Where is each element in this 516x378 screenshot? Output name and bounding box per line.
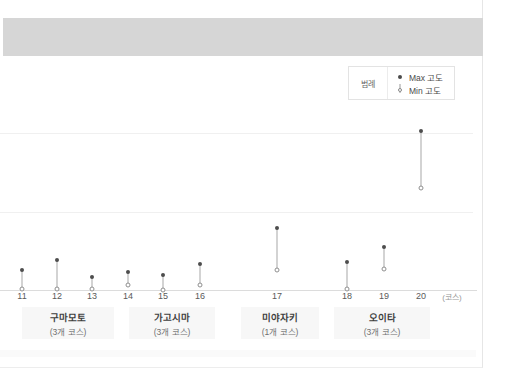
top-banner [3, 18, 483, 56]
group-course-count: (3개 코스) [50, 325, 87, 337]
data-point-min[interactable] [382, 267, 387, 272]
group-name: 미야자키 [262, 310, 298, 324]
data-point-max[interactable] [55, 258, 59, 262]
stem-connector [277, 228, 278, 269]
data-point-max[interactable] [275, 226, 279, 230]
x-tick-label: 18 [342, 291, 352, 301]
data-point-min[interactable] [126, 283, 131, 288]
stem-connector [347, 262, 348, 290]
legend-title: 범례 [349, 67, 388, 99]
data-point-max[interactable] [419, 129, 423, 133]
group-name: 구마모토 [50, 310, 86, 324]
chart-legend: 범례 Max 고도 Min 고도 [348, 66, 455, 100]
data-point-max[interactable] [345, 260, 349, 264]
group-box: 미야자키(1개 코스) [241, 307, 319, 339]
gridline-upper [0, 133, 473, 134]
group-course-count: (1개 코스) [262, 325, 299, 337]
x-tick-label: 13 [87, 291, 97, 301]
min-dot-icon [395, 88, 405, 92]
data-point-min[interactable] [275, 267, 280, 272]
group-box: 구마모토(3개 코스) [22, 307, 114, 339]
plot-area [0, 110, 483, 295]
group-box: 가고시마(3개 코스) [129, 307, 215, 339]
data-point-min[interactable] [198, 282, 203, 287]
x-axis-unit-label: (코스) [442, 291, 461, 302]
x-tick-label: 15 [158, 291, 168, 301]
x-axis-ticks: 11121314151617181920(코스) [0, 291, 483, 305]
x-tick-label: 11 [17, 291, 26, 301]
data-point-max[interactable] [198, 262, 202, 266]
bottom-band [0, 350, 476, 357]
data-point-min[interactable] [419, 186, 424, 191]
group-course-count: (3개 코스) [364, 325, 401, 337]
data-point-max[interactable] [20, 268, 24, 272]
group-course-count: (3개 코스) [154, 325, 191, 337]
group-box: 오이타(3개 코스) [334, 307, 430, 339]
chart-page: 범례 Max 고도 Min 고도 11121314151617181920( [0, 0, 516, 378]
max-dot-icon [395, 75, 405, 79]
legend-item-min: Min 고도 [395, 84, 454, 96]
legend-entries: Max 고도 Min 고도 [388, 67, 454, 99]
x-tick-label: 19 [379, 291, 389, 301]
data-point-max[interactable] [126, 270, 130, 274]
legend-item-max: Max 고도 [395, 71, 454, 83]
group-name: 가고시마 [154, 310, 190, 324]
x-tick-label: 14 [123, 291, 133, 301]
gridline-lower [0, 212, 473, 213]
x-tick-label: 12 [52, 291, 62, 301]
data-point-max[interactable] [161, 273, 165, 277]
group-labels: 구마모토(3개 코스)가고시마(3개 코스)미야자키(1개 코스)오이타(3개 … [0, 307, 483, 343]
stem-connector [421, 131, 422, 188]
x-tick-label: 20 [416, 291, 426, 301]
legend-label-min: Min 고도 [409, 84, 441, 96]
x-tick-label: 17 [272, 291, 282, 301]
data-point-max[interactable] [90, 275, 94, 279]
stem-connector [57, 260, 58, 289]
x-tick-label: 16 [195, 291, 205, 301]
data-point-max[interactable] [382, 245, 386, 249]
legend-label-max: Max 고도 [409, 71, 443, 83]
group-name: 오이타 [369, 310, 396, 324]
